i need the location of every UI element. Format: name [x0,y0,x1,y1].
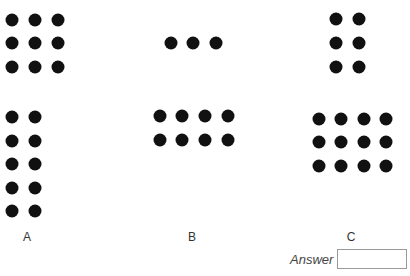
dot-icon [154,110,167,123]
dot-icon [210,37,223,50]
dot-icon [353,61,366,74]
dot-icon [6,135,19,148]
dot-icon [52,61,65,74]
dot-icon [380,136,393,149]
dot-icon [29,158,42,171]
dot-icon [330,61,343,74]
dot-icon [380,160,393,173]
dot-icon [6,205,19,218]
dot-icon [353,37,366,50]
dot-icon [380,113,393,126]
dot-icon [187,37,200,50]
dot-icon [353,13,366,26]
dot-icon [176,110,189,123]
dot-icon [52,14,65,27]
dot-icon [6,61,19,74]
dot-icon [313,136,326,149]
option-label-c: C [347,230,356,244]
dot-icon [6,37,19,50]
dot-icon [6,158,19,171]
dot-icon [176,134,189,147]
dot-icon [29,61,42,74]
dot-icon [29,135,42,148]
dot-icon [335,136,348,149]
dot-icon [29,205,42,218]
dot-icon [330,13,343,26]
dot-icon [358,113,371,126]
dot-icon [6,14,19,27]
dot-icon [52,37,65,50]
answer-label: Answer [290,252,333,267]
dot-icon [165,37,178,50]
dot-icon [313,113,326,126]
dot-icon [313,160,326,173]
dot-icon [154,134,167,147]
dot-icon [6,111,19,124]
dot-icon [199,110,212,123]
option-label-b: B [188,230,196,244]
dot-icon [358,136,371,149]
option-label-a: A [23,230,31,244]
dot-icon [6,182,19,195]
dot-icon [330,37,343,50]
dot-icon [199,134,212,147]
dot-icon [335,113,348,126]
dot-icon [222,110,235,123]
answer-input[interactable] [337,249,407,269]
dot-icon [222,134,235,147]
dot-icon [358,160,371,173]
dot-icon [29,14,42,27]
dot-icon [29,37,42,50]
dot-icon [29,182,42,195]
dot-icon [335,160,348,173]
dot-icon [29,111,42,124]
